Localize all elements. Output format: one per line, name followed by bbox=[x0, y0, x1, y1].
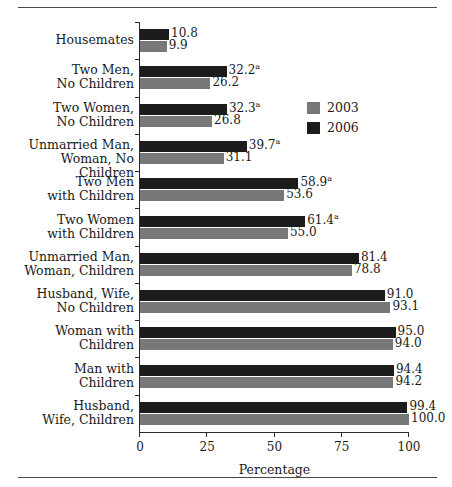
bar-2003[interactable] bbox=[140, 153, 224, 164]
y-tick-5 bbox=[135, 208, 140, 209]
bar-group: 39.7a31.1 bbox=[140, 141, 409, 164]
x-tick-25 bbox=[206, 432, 207, 437]
category-label: Two Men,No Children bbox=[6, 63, 140, 91]
bar-2006[interactable] bbox=[140, 290, 385, 301]
footnote-marker: a bbox=[327, 174, 332, 183]
y-tick-2 bbox=[135, 97, 140, 98]
bar-value-label-2003: 94.2 bbox=[393, 376, 422, 387]
category-label: Woman withChildren bbox=[6, 324, 140, 352]
bar-group: 99.4100.0 bbox=[140, 402, 409, 425]
chart-figure: 0255075100 10.89.932.2a26.232.3a26.839.7… bbox=[0, 0, 452, 487]
x-axis-label: Percentage bbox=[140, 462, 409, 477]
category-label-line: Children bbox=[6, 376, 134, 390]
category-label-line: with Children bbox=[6, 227, 134, 241]
x-tick-label-50: 50 bbox=[245, 440, 305, 454]
category-label-line: Woman, Children bbox=[6, 264, 134, 278]
category-label-line: No Children bbox=[6, 77, 134, 91]
footnote-marker: a bbox=[256, 100, 261, 109]
bar-2003[interactable] bbox=[140, 339, 393, 350]
bar-2003[interactable] bbox=[140, 414, 409, 425]
category-label: Two Womenwith Children bbox=[6, 213, 140, 241]
bar-group: 10.89.9 bbox=[140, 29, 409, 52]
legend-label-2003: 2003 bbox=[327, 100, 359, 115]
bar-value-label-2006: 94.4 bbox=[394, 364, 423, 375]
bar-group: 61.4a55.0 bbox=[140, 216, 409, 239]
bar-value-label-2003: 100.0 bbox=[409, 413, 445, 424]
bar-2003[interactable] bbox=[140, 377, 393, 388]
bar-value-label-2003: 9.9 bbox=[167, 40, 188, 51]
y-tick-10 bbox=[135, 395, 140, 396]
legend-item-2006[interactable]: 2006 bbox=[307, 119, 387, 139]
top-divider-rule bbox=[18, 7, 437, 8]
x-tick-label-100: 100 bbox=[379, 440, 439, 454]
category-label-line: Two Women bbox=[6, 213, 134, 227]
plot-area: 0255075100 10.89.932.2a26.232.3a26.839.7… bbox=[140, 22, 409, 432]
category-label-line: Unmarried Man, bbox=[6, 250, 134, 264]
x-tick-0 bbox=[139, 432, 140, 437]
legend-swatch-2003 bbox=[307, 102, 320, 114]
y-tick-1 bbox=[135, 59, 140, 60]
x-tick-50 bbox=[274, 432, 275, 437]
y-tick-9 bbox=[135, 357, 140, 358]
bottom-divider-rule bbox=[18, 477, 437, 478]
category-label-line: Wife, Children bbox=[6, 413, 134, 427]
category-label: Husband, Wife,No Children bbox=[6, 287, 140, 315]
category-label-line: Woman with bbox=[6, 324, 134, 338]
bar-2006[interactable] bbox=[140, 29, 169, 40]
bar-2006[interactable] bbox=[140, 327, 396, 338]
bar-value-label-2003: 26.8 bbox=[212, 115, 241, 126]
category-label-line: Husband, bbox=[6, 399, 134, 413]
category-label-line: Children bbox=[6, 338, 134, 352]
bar-group: 91.093.1 bbox=[140, 290, 409, 313]
bar-value-label-2003: 78.8 bbox=[352, 264, 381, 275]
bar-2006[interactable] bbox=[140, 178, 298, 189]
category-label: Husband,Wife, Children bbox=[6, 399, 140, 427]
x-tick-label-25: 25 bbox=[177, 440, 237, 454]
legend-item-2003[interactable]: 2003 bbox=[307, 99, 387, 119]
category-label: Two Menwith Children bbox=[6, 175, 140, 203]
bar-2003[interactable] bbox=[140, 41, 167, 52]
x-tick-label-0: 0 bbox=[110, 440, 170, 454]
bar-value-label-2003: 31.1 bbox=[224, 152, 253, 163]
y-tick-6 bbox=[135, 246, 140, 247]
bar-group: 32.2a26.2 bbox=[140, 66, 409, 89]
bar-value-label-2003: 55.0 bbox=[288, 227, 317, 238]
category-label: Two Women,No Children bbox=[6, 101, 140, 129]
legend-swatch-2006 bbox=[307, 122, 320, 134]
category-label-line: Housemates bbox=[6, 33, 134, 47]
chart-legend: 20032006 bbox=[307, 99, 387, 139]
x-tick-label-75: 75 bbox=[312, 440, 372, 454]
bar-2003[interactable] bbox=[140, 265, 352, 276]
bar-2003[interactable] bbox=[140, 302, 390, 313]
y-tick-0 bbox=[135, 22, 140, 23]
bar-2003[interactable] bbox=[140, 190, 284, 201]
category-label-line: Two Men bbox=[6, 175, 134, 189]
x-tick-75 bbox=[341, 432, 342, 437]
bar-2006[interactable] bbox=[140, 253, 359, 264]
bar-value-label-2003: 53.6 bbox=[284, 189, 313, 200]
bar-value-label-2003: 94.0 bbox=[393, 338, 422, 349]
footnote-marker: a bbox=[276, 137, 281, 146]
category-label-line: with Children bbox=[6, 189, 134, 203]
bar-value-label-2003: 26.2 bbox=[210, 77, 239, 88]
y-tick-3 bbox=[135, 134, 140, 135]
category-label-line: Two Men, bbox=[6, 63, 134, 77]
bar-2006[interactable] bbox=[140, 216, 305, 227]
footnote-marker: a bbox=[255, 62, 260, 71]
legend-label-2006: 2006 bbox=[327, 120, 359, 135]
bar-2006[interactable] bbox=[140, 365, 394, 376]
bar-group: 95.094.0 bbox=[140, 327, 409, 350]
category-label-line: No Children bbox=[6, 301, 134, 315]
bar-2003[interactable] bbox=[140, 78, 210, 89]
category-label-line: Unmarried Man, bbox=[6, 138, 134, 152]
y-tick-7 bbox=[135, 283, 140, 284]
category-label: Man withChildren bbox=[6, 362, 140, 390]
bar-2003[interactable] bbox=[140, 228, 288, 239]
bar-2006[interactable] bbox=[140, 402, 407, 413]
category-label-line: Two Women, bbox=[6, 101, 134, 115]
bar-value-label-2006: 61.4a bbox=[305, 215, 339, 226]
bar-group: 94.494.2 bbox=[140, 365, 409, 388]
bar-group: 58.9a53.6 bbox=[140, 178, 409, 201]
category-label: Unmarried Man,Woman, Children bbox=[6, 250, 140, 278]
bar-2003[interactable] bbox=[140, 116, 212, 127]
